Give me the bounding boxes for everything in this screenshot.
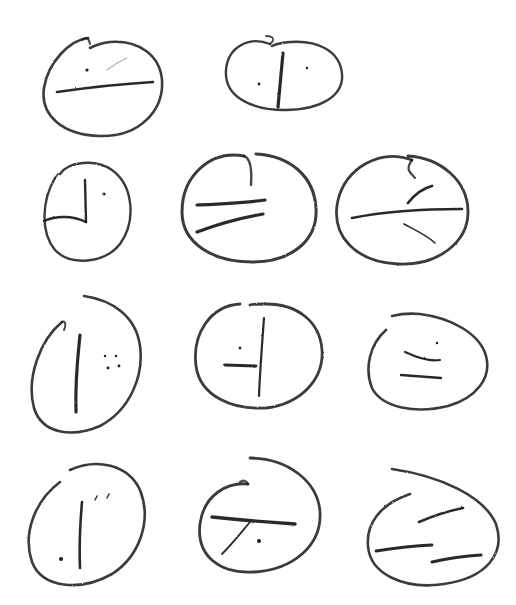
inner-stroke: [85, 180, 86, 222]
oval-symbol-r2c3: [337, 156, 468, 264]
inner-stroke: [57, 82, 153, 92]
inner-dot: [115, 355, 117, 357]
oval-outline: [44, 163, 130, 261]
oval-outline: [368, 314, 487, 410]
inner-dot: [118, 365, 121, 368]
oval-tail-stroke: [82, 38, 90, 44]
oval-tail-stroke: [409, 160, 415, 178]
inner-stroke: [376, 545, 432, 551]
oval-symbol-r2c1: [44, 163, 130, 261]
oval-outline: [32, 296, 141, 432]
oval-outline: [226, 41, 342, 110]
inner-stroke: [401, 375, 441, 378]
inner-stroke: [107, 494, 109, 498]
symbol-sheet: [0, 0, 516, 605]
inner-stroke: [352, 209, 462, 218]
inner-stroke: [259, 318, 264, 396]
drawing-canvas: [0, 0, 516, 605]
oval-tail-stroke: [244, 156, 251, 185]
inner-dot: [239, 347, 242, 350]
oval-outline: [200, 458, 321, 572]
inner-stroke: [212, 517, 295, 524]
inner-stroke: [432, 555, 481, 562]
inner-dot: [107, 367, 110, 370]
inner-stroke: [197, 214, 263, 232]
oval-symbol-r1c2: [226, 36, 342, 110]
inner-dot: [258, 83, 261, 86]
inner-dot: [436, 342, 438, 344]
oval-tail-stroke: [55, 174, 58, 178]
oval-symbol-r3c2: [195, 304, 322, 408]
inner-stroke: [76, 335, 80, 412]
inner-stroke: [222, 522, 250, 554]
oval-symbol-r4c2: [200, 458, 321, 572]
oval-symbol-r4c3: [368, 469, 499, 585]
inner-stroke: [44, 217, 86, 222]
oval-symbol-r4c1: [29, 464, 145, 585]
inner-dot: [59, 557, 63, 561]
oval-symbol-r3c1: [32, 296, 141, 432]
oval-outline: [29, 464, 145, 585]
inner-stroke: [405, 352, 440, 361]
inner-dot: [104, 355, 106, 357]
oval-outline: [368, 469, 499, 585]
oval-tail-stroke: [62, 322, 65, 330]
inner-stroke: [404, 224, 435, 243]
inner-dot: [85, 68, 88, 71]
oval-outline: [182, 154, 316, 262]
inner-stroke: [225, 365, 256, 366]
oval-symbol-r2c2: [182, 154, 316, 262]
inner-stroke: [419, 508, 463, 522]
inner-stroke: [197, 200, 265, 205]
oval-symbol-r1c1: [44, 38, 163, 136]
inner-stroke: [80, 502, 82, 568]
inner-stroke: [107, 58, 127, 70]
inner-stroke: [95, 496, 97, 500]
inner-dot: [257, 539, 261, 543]
inner-dot: [102, 192, 105, 195]
oval-symbol-r3c3: [368, 314, 487, 410]
inner-stroke: [278, 53, 283, 107]
inner-dot: [306, 67, 308, 69]
inner-stroke: [408, 186, 432, 203]
